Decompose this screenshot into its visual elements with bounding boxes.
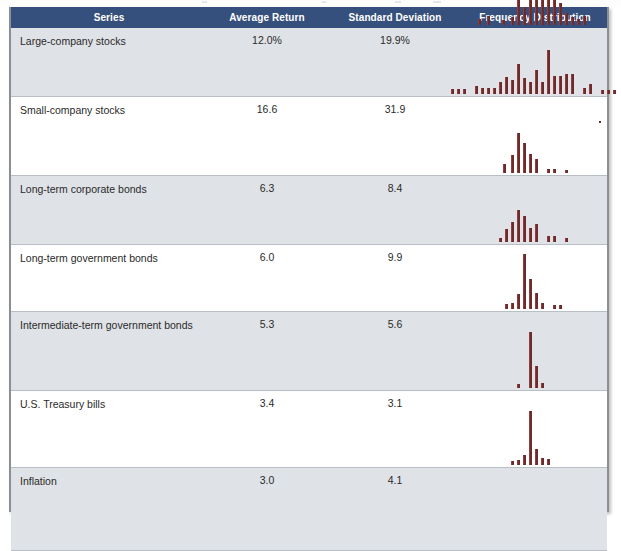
histogram-bar	[535, 449, 538, 465]
cell-series: Large-company stocks	[11, 28, 207, 97]
cell-standard-deviation: 9.9	[327, 245, 463, 312]
histogram-bar	[535, 70, 538, 94]
histogram-bar	[481, 88, 484, 94]
histogram-bar	[503, 164, 506, 173]
histogram-bar	[553, 76, 556, 94]
cell-standard-deviation: 31.9	[327, 97, 463, 176]
histogram-bar	[535, 0, 538, 25]
cell-standard-deviation: 3.1	[327, 391, 463, 468]
histogram-bar	[613, 90, 616, 94]
histogram-bar	[457, 89, 460, 94]
cell-standard-deviation: 5.6	[327, 312, 463, 391]
histogram-bar	[499, 238, 502, 242]
table-row: Inflation 3.0 4.1	[11, 468, 607, 551]
cell-series: Inflation	[11, 468, 207, 551]
histogram-bar	[535, 366, 538, 388]
histogram-bar	[565, 170, 568, 173]
histogram-bar	[487, 88, 490, 94]
histogram-bar	[559, 76, 562, 94]
histogram-bar	[571, 74, 574, 94]
histogram-bar	[559, 3, 562, 25]
histogram-bar	[502, 20, 505, 25]
histogram-bar	[529, 411, 532, 465]
histogram-bar	[451, 89, 454, 94]
histogram-bar	[505, 77, 508, 94]
histogram-bar	[517, 64, 520, 94]
histogram-bar	[517, 210, 520, 242]
histogram-bar	[571, 17, 574, 25]
histogram-bar	[511, 155, 514, 173]
cell-average-return: 6.0	[207, 245, 327, 312]
histogram-bar	[487, 16, 490, 25]
histogram-bar	[547, 0, 550, 25]
histogram-bar	[565, 238, 568, 242]
histogram-bar	[565, 13, 568, 25]
histogram-bar	[535, 293, 538, 309]
histogram-bar	[511, 80, 514, 94]
histogram-bar	[493, 88, 496, 94]
table-frame: Series Average Return Standard Deviation…	[9, 7, 609, 512]
table-body: Large-company stocks 12.0% 19.9% Small-c…	[11, 28, 607, 551]
column-header-standard-deviation[interactable]: Standard Deviation	[327, 7, 463, 28]
histogram-bar	[523, 7, 526, 25]
histogram-bar	[565, 74, 568, 94]
cell-frequency-distribution	[463, 468, 607, 551]
histogram-bar	[541, 303, 544, 309]
table-row: Intermediate-term government bonds 5.3 5…	[11, 312, 607, 391]
cell-standard-deviation: 4.1	[327, 468, 463, 551]
histogram-bar	[553, 0, 556, 25]
histogram-bar	[535, 159, 538, 173]
histogram-bar	[529, 228, 532, 242]
histogram-bar	[583, 16, 586, 25]
column-header-series[interactable]: Series	[11, 7, 207, 28]
histogram-bar	[601, 90, 604, 94]
histogram-bar	[559, 305, 562, 309]
histogram-bar	[577, 19, 580, 25]
histogram-bar	[523, 78, 526, 94]
cell-average-return: 6.3	[207, 176, 327, 245]
histogram-bar	[541, 82, 544, 94]
histogram-bar	[463, 89, 466, 94]
cell-average-return: 3.4	[207, 391, 327, 468]
cell-series: Long-term corporate bonds	[11, 176, 207, 245]
histogram-bar	[517, 133, 520, 173]
histogram-bar	[523, 455, 526, 465]
histogram-bar	[523, 216, 526, 242]
histogram-bar	[529, 82, 532, 94]
histogram-bar	[511, 222, 514, 242]
histogram-bar	[553, 305, 556, 309]
column-header-average-return[interactable]: Average Return	[207, 7, 327, 28]
histogram-bar	[523, 143, 526, 173]
cell-average-return: 12.0%	[207, 28, 327, 97]
cell-series: U.S. Treasury bills	[11, 391, 207, 468]
histogram-bar	[589, 84, 592, 94]
cell-average-return: 16.6	[207, 97, 327, 176]
cell-series: Small-company stocks	[11, 97, 207, 176]
histogram-bar	[607, 90, 610, 94]
histogram-bar	[517, 384, 520, 388]
cell-average-return: 5.3	[207, 312, 327, 391]
histogram-bar	[523, 254, 526, 309]
histogram-bar	[547, 50, 550, 94]
histogram-bar	[505, 229, 508, 242]
histogram-bar	[517, 0, 520, 25]
cell-series: Intermediate-term government bonds	[11, 312, 207, 391]
histogram-bar	[517, 460, 520, 465]
histogram-bar	[529, 279, 532, 309]
table-row: U.S. Treasury bills 3.4 3.1	[11, 391, 607, 468]
scan-speck	[599, 121, 601, 123]
returns-table: Series Average Return Standard Deviation…	[11, 7, 607, 551]
histogram-bar	[529, 332, 532, 388]
cell-standard-deviation: 19.9%	[327, 28, 463, 97]
histogram-bar	[475, 86, 478, 94]
page-top-artifact	[0, 0, 621, 7]
histogram-bar	[511, 17, 514, 25]
histogram-bar	[517, 294, 520, 309]
histogram-bar	[478, 19, 481, 25]
histogram-bar	[547, 169, 550, 173]
histogram-bar	[553, 169, 556, 173]
histogram-bar	[553, 236, 556, 242]
histogram-bar	[499, 82, 502, 94]
histogram-bar	[541, 458, 544, 465]
